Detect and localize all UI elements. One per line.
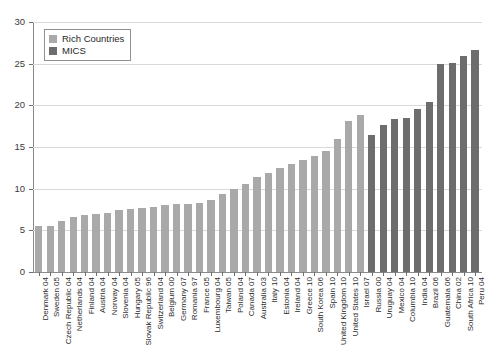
x-axis-tick-mark	[228, 272, 239, 276]
bar	[161, 205, 168, 272]
bar	[70, 217, 77, 272]
x-axis-tick-mark	[205, 272, 216, 276]
x-axis-tick-mark	[90, 272, 101, 276]
bar	[47, 226, 54, 272]
y-axis-tick-label: 5	[3, 225, 25, 235]
x-axis-tick-mark	[297, 272, 308, 276]
bar	[288, 164, 295, 272]
bar	[35, 226, 42, 272]
x-axis-tick-mark	[79, 272, 90, 276]
x-axis-tick-mark	[401, 272, 412, 276]
bar	[460, 56, 467, 272]
bar	[196, 203, 203, 272]
x-axis-tick-mark	[159, 272, 170, 276]
bar	[391, 119, 398, 272]
x-axis-tick-mark	[355, 272, 366, 276]
x-axis-tick-mark	[389, 272, 400, 276]
x-axis-tick-mark	[366, 272, 377, 276]
bar-cell	[435, 22, 446, 272]
bar-cell	[148, 22, 159, 272]
x-axis-label-cell: Ireland 04	[286, 277, 297, 363]
x-axis-tick-mark	[458, 272, 469, 276]
bar-cell	[366, 22, 377, 272]
x-axis-tick-mark	[171, 272, 182, 276]
x-axis-tick-mark	[274, 272, 285, 276]
bar-cell	[182, 22, 193, 272]
x-axis-label-cell: Austria 04	[90, 277, 101, 363]
x-axis-label-cell: France 05	[194, 277, 205, 363]
x-axis-label-cell: Finland 04	[79, 277, 90, 363]
bar-cell	[412, 22, 423, 272]
bar-cell	[286, 22, 297, 272]
bar-cell	[297, 22, 308, 272]
x-axis-label-cell: Germany 07	[171, 277, 182, 363]
x-axis-label-cell: Mexico 04	[389, 277, 400, 363]
x-axis-tick-mark	[113, 272, 124, 276]
x-axis-label-cell: Uruguay 04	[378, 277, 389, 363]
bar-cell	[343, 22, 354, 272]
x-axis-label-cell: Guatemala 06	[435, 277, 446, 363]
x-axis-label-cell: Peru 04	[469, 277, 480, 363]
legend-item-mics: MICS	[49, 45, 124, 57]
x-axis-label-cell: Hungary 05	[125, 277, 136, 363]
bar-cell	[171, 22, 182, 272]
x-axis-tick-mark	[343, 272, 354, 276]
bar	[173, 204, 180, 272]
chart-legend: Rich Countries MICS	[44, 29, 131, 61]
x-axis-label-cell: Switzerland 04	[148, 277, 159, 363]
bar	[138, 208, 145, 272]
bar	[299, 160, 306, 272]
x-axis-label-cell: United States 10	[343, 277, 354, 363]
y-axis-tick-label: 20	[3, 100, 25, 110]
bar	[58, 221, 65, 272]
x-axis-label-cell: Belgium 00	[159, 277, 170, 363]
x-axis-labels: Denmark 04Sweden 05Czech Republic 04Neth…	[33, 277, 481, 363]
y-axis-tick-label: 25	[3, 59, 25, 69]
bar-cell	[136, 22, 147, 272]
x-axis-tick-mark	[194, 272, 205, 276]
x-axis-label-cell: South Korea 06	[309, 277, 320, 363]
legend-item-rich-countries: Rich Countries	[49, 33, 124, 45]
x-axis-tick-mark	[446, 272, 457, 276]
x-axis-tick-mark	[435, 272, 446, 276]
bar-cell	[309, 22, 320, 272]
x-axis-label-cell: Israel 07	[355, 277, 366, 363]
x-axis-tick-mark	[182, 272, 193, 276]
y-axis-tick-label: 0	[3, 267, 25, 277]
bar-cell	[194, 22, 205, 272]
x-axis-tick-mark	[125, 272, 136, 276]
x-axis-tick-mark	[320, 272, 331, 276]
bar-cell	[274, 22, 285, 272]
x-axis-label-cell: Luxembourg 04	[205, 277, 216, 363]
legend-swatch-icon-rich-countries	[49, 35, 57, 43]
x-axis-tick-mark	[423, 272, 434, 276]
x-axis-label-cell: India 04	[412, 277, 423, 363]
bar	[449, 63, 456, 272]
x-axis-label-cell: Czech Republic 04	[56, 277, 67, 363]
bar	[414, 109, 421, 272]
x-axis-tick-mark	[240, 272, 251, 276]
bar-cell	[446, 22, 457, 272]
x-axis-tick-mark	[102, 272, 113, 276]
x-axis-label-cell: Canada 07	[240, 277, 251, 363]
bar	[322, 151, 329, 272]
x-axis-tick-mark	[251, 272, 262, 276]
x-axis-tick-mark	[332, 272, 343, 276]
x-axis-label-cell: Netherlands 04	[67, 277, 78, 363]
x-axis-label-cell: Taiwan 05	[217, 277, 228, 363]
bar	[115, 210, 122, 273]
y-axis-tick-label: 30	[3, 17, 25, 27]
bar	[81, 215, 88, 273]
x-axis-label-cell: Russia 00	[366, 277, 377, 363]
bar	[403, 118, 410, 272]
bar-cell	[33, 22, 44, 272]
bar-cell	[355, 22, 366, 272]
bar	[253, 177, 260, 272]
bar-cell	[320, 22, 331, 272]
x-axis-tick-mark	[217, 272, 228, 276]
bar	[380, 125, 387, 272]
bar	[368, 135, 375, 273]
bar	[426, 102, 433, 272]
x-axis-label-cell: Poland 04	[228, 277, 239, 363]
bar	[471, 50, 478, 273]
